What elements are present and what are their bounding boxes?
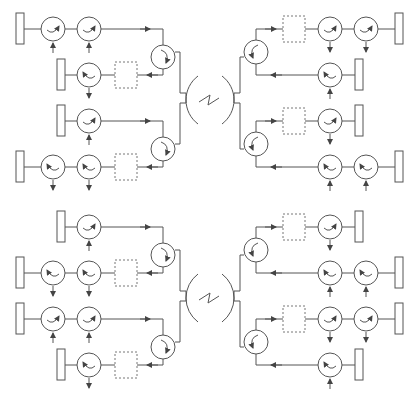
left-row-3: [16, 151, 163, 190]
reflector-block: [395, 151, 403, 182]
isolator-circle: [77, 17, 101, 41]
right-circulator-0-circle: [244, 40, 268, 64]
return-line: [256, 262, 318, 273]
left-antenna-arc: [186, 76, 198, 124]
left-row-0: [16, 13, 163, 53]
feed-line: [101, 319, 163, 335]
reflector-block: [16, 151, 24, 182]
left-circulator-1-circle: [151, 137, 175, 161]
half-lower: [16, 211, 403, 389]
right-trunk-line: [234, 57, 244, 93]
modulator-box: [283, 16, 305, 42]
isolator-circle: [318, 353, 342, 377]
isolator-circle: [318, 155, 342, 179]
isolator-circle: [77, 307, 101, 331]
channel-lightning-icon: [199, 95, 219, 105]
right-trunk-line: [234, 255, 244, 291]
half-upper: [16, 13, 403, 191]
right-row-3: [256, 349, 363, 389]
reflector-block: [57, 59, 65, 90]
left-row-2: [57, 105, 163, 145]
right-trunk-line: [234, 103, 244, 149]
isolator-circle: [77, 109, 101, 133]
right-trunk-line: [234, 301, 244, 347]
return-line: [256, 64, 318, 75]
isolator-circle: [77, 353, 101, 377]
right-row-1: [256, 59, 363, 99]
reflector-block: [395, 13, 403, 44]
isolator-circle: [318, 307, 342, 331]
left-trunk-line: [175, 301, 186, 342]
feed-line: [101, 227, 163, 243]
left-trunk-line: [175, 103, 186, 144]
isolator-circle: [77, 63, 101, 87]
reflector-block: [57, 349, 65, 380]
reflector-block: [395, 303, 403, 334]
right-row-0: [256, 13, 403, 52]
reflector-block: [16, 303, 24, 334]
right-circulator-1-circle: [244, 132, 268, 156]
circulator-channel-diagram: [0, 0, 419, 398]
return-line: [137, 69, 163, 75]
left-row-2: [16, 303, 163, 343]
left-trunk-line: [175, 52, 186, 93]
modulator-box: [115, 260, 137, 286]
left-row-3: [57, 349, 163, 388]
right-circulator-1-circle: [244, 330, 268, 354]
isolator-circle: [41, 17, 65, 41]
isolator-circle: [354, 307, 378, 331]
reflector-block: [355, 105, 363, 136]
reflector-block: [355, 349, 363, 380]
right-antenna-arc: [222, 274, 234, 322]
reflector-block: [395, 257, 403, 288]
reflector-block: [16, 13, 24, 44]
modulator-box: [283, 306, 305, 332]
feed-line: [256, 29, 283, 40]
return-line: [256, 156, 318, 167]
left-row-1: [16, 257, 163, 296]
left-row-0: [57, 211, 163, 251]
reflector-block: [16, 257, 24, 288]
isolator-circle: [354, 17, 378, 41]
modulator-box: [115, 154, 137, 180]
left-row-1: [57, 59, 163, 98]
return-line: [137, 267, 163, 273]
channel-lightning-icon: [199, 293, 219, 303]
feed-line: [256, 227, 283, 238]
reflector-block: [355, 59, 363, 90]
reflector-block: [57, 211, 65, 242]
isolator-circle: [354, 155, 378, 179]
left-trunk-line: [175, 250, 186, 291]
isolator-circle: [354, 261, 378, 285]
isolator-circle: [318, 215, 342, 239]
isolator-circle: [41, 307, 65, 331]
return-line: [137, 359, 163, 365]
isolator-circle: [77, 261, 101, 285]
feed-line: [256, 319, 283, 330]
right-row-2: [256, 303, 403, 342]
return-line: [137, 161, 163, 167]
left-antenna-arc: [186, 274, 198, 322]
reflector-block: [355, 211, 363, 242]
feed-line: [101, 29, 163, 45]
right-circulator-0-circle: [244, 238, 268, 262]
feed-line: [101, 121, 163, 137]
modulator-box: [115, 62, 137, 88]
isolator-circle: [77, 155, 101, 179]
modulator-box: [283, 108, 305, 134]
isolator-circle: [318, 109, 342, 133]
feed-line: [256, 121, 283, 132]
isolator-circle: [318, 17, 342, 41]
isolator-circle: [318, 261, 342, 285]
reflector-block: [57, 105, 65, 136]
isolator-circle: [41, 155, 65, 179]
isolator-circle: [41, 261, 65, 285]
return-line: [256, 354, 318, 365]
left-circulator-0-circle: [151, 243, 175, 267]
modulator-box: [283, 214, 305, 240]
right-row-1: [256, 257, 403, 297]
right-row-2: [256, 105, 363, 144]
left-circulator-0-circle: [151, 45, 175, 69]
right-row-0: [256, 211, 363, 250]
isolator-circle: [77, 215, 101, 239]
